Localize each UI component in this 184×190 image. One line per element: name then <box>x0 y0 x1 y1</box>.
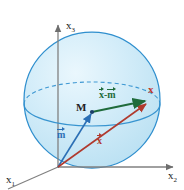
diagram-canvas <box>0 0 184 190</box>
x1-axis-label: x1 <box>6 174 15 188</box>
vector-x-minus-m-label: x-m <box>99 90 116 100</box>
center-point-marker <box>90 110 94 114</box>
center-point-label: M <box>76 102 86 113</box>
sphere-vector-diagram: x3 x2 x1 M x m x x-m <box>0 0 184 190</box>
sphere-body <box>24 32 160 180</box>
x3-axis-label: x3 <box>66 20 75 34</box>
vector-x-label: x <box>97 136 102 146</box>
vector-m-label: m <box>57 130 65 140</box>
surface-point-label: x <box>148 84 154 95</box>
x1-axis-line <box>8 167 58 189</box>
x2-axis-label: x2 <box>168 170 177 184</box>
